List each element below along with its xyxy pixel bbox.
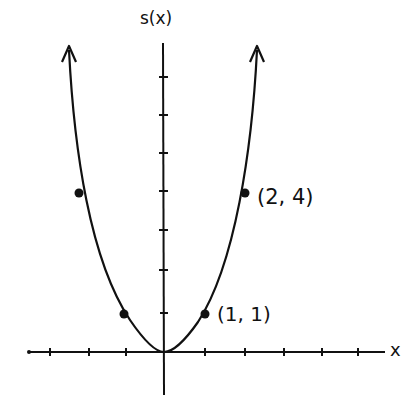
y-axis-label: s(x): [140, 8, 172, 28]
x-axis-label: x: [390, 339, 401, 360]
x-axis-left-dot: [27, 350, 31, 354]
point-label-1-1: (1, 1): [217, 302, 271, 326]
point-2-4: [241, 189, 250, 198]
y-axis: [163, 43, 164, 395]
point-label-2-4: (2, 4): [257, 185, 313, 209]
parabola-plot: [0, 0, 413, 410]
point-1-1: [201, 310, 210, 319]
point-neg2-4: [75, 189, 84, 198]
point-neg1-1: [120, 310, 129, 319]
